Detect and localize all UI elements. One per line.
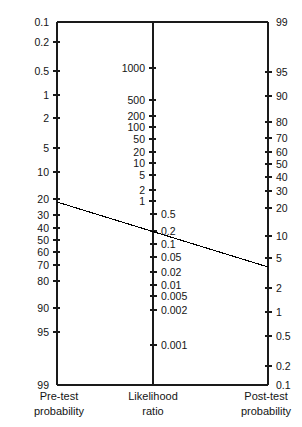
likelihood-tick-label-500: 500 — [127, 94, 145, 106]
likelihood-tick-label-5: 5 — [139, 169, 145, 181]
pre-test-probability-caption-line1: Pre-test — [40, 390, 79, 402]
posttest-tick-label-95: 95 — [276, 66, 288, 78]
likelihood-tick-label-10: 10 — [133, 157, 145, 169]
pretest-tick-label-0.2: 0.2 — [34, 36, 49, 48]
nomogram-canvas: 0.10.20.51251020304050607080909599 10005… — [0, 0, 302, 427]
posttest-tick-label-0.1: 0.1 — [276, 379, 291, 391]
posttest-tick-label-2: 2 — [276, 282, 282, 294]
post-test-probability-axis: 99959080706050403020105210.50.20.1 — [265, 16, 291, 391]
likelihood-tick-label-0.5: 0.5 — [161, 208, 176, 220]
posttest-tick-label-0.2: 0.2 — [276, 360, 291, 372]
likelihood-tick-label-0.1: 0.1 — [161, 238, 176, 250]
posttest-tick-label-80: 80 — [276, 116, 288, 128]
posttest-tick-label-5: 5 — [276, 252, 282, 264]
likelihood-tick-label-100: 100 — [127, 121, 145, 133]
post-test-probability-caption-line2: probability — [241, 405, 292, 417]
posttest-tick-label-60: 60 — [276, 146, 288, 158]
posttest-tick-label-50: 50 — [276, 158, 288, 170]
pretest-tick-label-2: 2 — [43, 112, 49, 124]
likelihood-tick-label-0.001: 0.001 — [161, 339, 187, 351]
posttest-tick-label-30: 30 — [276, 185, 288, 197]
pretest-tick-label-20: 20 — [37, 193, 49, 205]
likelihood-ratio-caption-line2: ratio — [142, 405, 163, 417]
pre-test-probability-axis: 0.10.20.51251020304050607080909599 — [34, 16, 60, 391]
pretest-tick-label-80: 80 — [37, 275, 49, 287]
pretest-tick-label-50: 50 — [37, 234, 49, 246]
posttest-tick-label-99: 99 — [276, 16, 288, 28]
chart-frame — [57, 22, 268, 385]
likelihood-tick-label-0.05: 0.05 — [161, 251, 182, 263]
pretest-tick-label-10: 10 — [37, 166, 49, 178]
posttest-tick-label-0.5: 0.5 — [276, 330, 291, 342]
fagan-nomogram: 0.10.20.51251020304050607080909599 10005… — [0, 0, 302, 427]
likelihood-tick-label-0.005: 0.005 — [161, 290, 187, 302]
pretest-tick-label-70: 70 — [37, 259, 49, 271]
pretest-tick-label-95: 95 — [37, 326, 49, 338]
posttest-tick-label-90: 90 — [276, 90, 288, 102]
likelihood-tick-label-1: 1 — [139, 195, 145, 207]
post-test-probability-caption-line1: Post-test — [244, 390, 287, 402]
pretest-tick-label-90: 90 — [37, 302, 49, 314]
pretest-tick-label-60: 60 — [37, 246, 49, 258]
posttest-tick-label-20: 20 — [276, 202, 288, 214]
posttest-tick-label-40: 40 — [276, 171, 288, 183]
pretest-tick-label-40: 40 — [37, 222, 49, 234]
pretest-tick-label-1: 1 — [43, 89, 49, 101]
posttest-tick-label-70: 70 — [276, 132, 288, 144]
likelihood-tick-label-0.02: 0.02 — [161, 266, 182, 278]
pretest-tick-label-99: 99 — [37, 379, 49, 391]
posttest-tick-label-1: 1 — [276, 306, 282, 318]
likelihood-tick-label-50: 50 — [133, 133, 145, 145]
pretest-tick-label-5: 5 — [43, 142, 49, 154]
likelihood-ratio-caption-line1: Likelihood — [128, 390, 178, 402]
likelihood-tick-label-0.002: 0.002 — [161, 304, 187, 316]
likelihood-ratio-axis: 10005002001005020105210.50.20.10.050.020… — [122, 62, 188, 351]
pre-test-probability-caption-line2: probability — [34, 405, 85, 417]
posttest-tick-label-10: 10 — [276, 230, 288, 242]
pretest-tick-label-30: 30 — [37, 209, 49, 221]
pretest-tick-label-0.1: 0.1 — [34, 16, 49, 28]
pretest-tick-label-0.5: 0.5 — [34, 65, 49, 77]
likelihood-tick-label-1000: 1000 — [122, 62, 146, 74]
axis-captions: Pre-testprobabilityLikelihoodratioPost-t… — [34, 390, 292, 417]
